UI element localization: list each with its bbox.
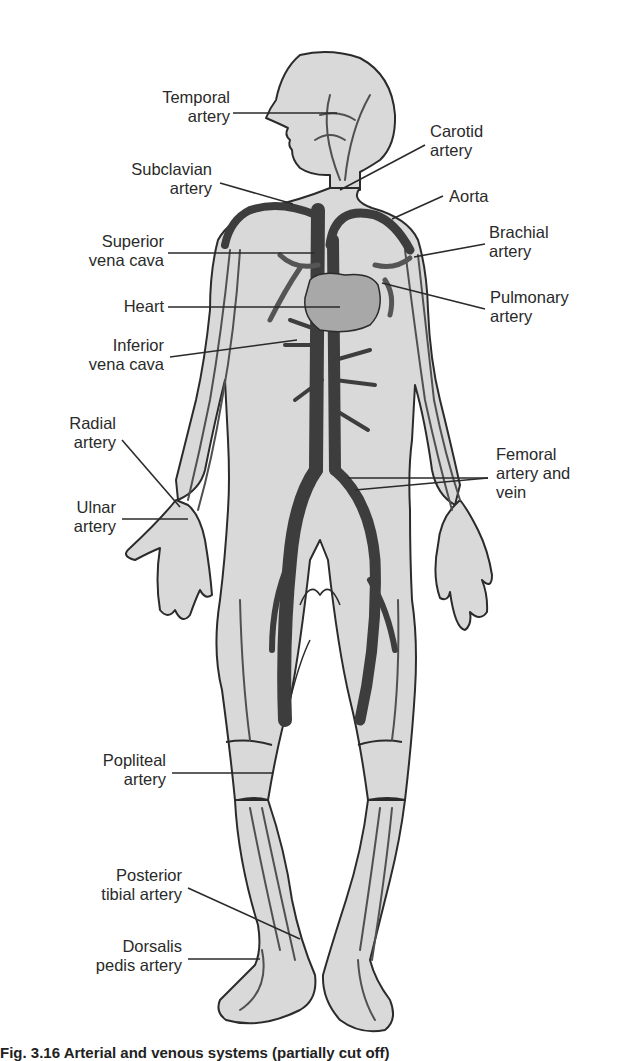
label-text: artery xyxy=(40,433,116,452)
label-popliteal-artery: Popliteal artery xyxy=(80,751,166,789)
label-text: artery xyxy=(80,770,166,789)
label-dorsalis-pedis-artery: Dorsalis pedis artery xyxy=(70,937,182,975)
left-hand xyxy=(126,500,212,619)
label-text: artery xyxy=(489,242,549,261)
label-text: artery xyxy=(100,179,212,198)
label-text: Ulnar xyxy=(40,498,116,517)
label-radial-artery: Radial artery xyxy=(40,414,116,452)
label-text: Femoral xyxy=(496,445,570,464)
label-text: Subclavian xyxy=(100,160,212,179)
label-carotid-artery: Carotid artery xyxy=(430,122,483,160)
label-text: Aorta xyxy=(449,187,488,206)
label-text: vena cava xyxy=(70,355,164,374)
label-femoral-artery-and-vein: Femoral artery and vein xyxy=(496,445,570,502)
label-text: Superior xyxy=(70,232,164,251)
label-text: Dorsalis xyxy=(70,937,182,956)
label-text: Popliteal xyxy=(80,751,166,770)
figure-caption: Fig. 3.16 Arterial and venous systems (p… xyxy=(0,1044,390,1061)
label-ulnar-artery: Ulnar artery xyxy=(40,498,116,536)
head-outline xyxy=(266,52,395,190)
label-text: Heart xyxy=(70,297,164,316)
label-text: Posterior xyxy=(70,866,182,885)
right-hand xyxy=(435,500,492,630)
label-subclavian-artery: Subclavian artery xyxy=(100,160,212,198)
label-temporal-artery: Temporal artery xyxy=(140,88,230,126)
label-inferior-vena-cava: Inferior vena cava xyxy=(70,336,164,374)
label-aorta: Aorta xyxy=(449,187,488,206)
label-text: Temporal xyxy=(140,88,230,107)
label-text: artery and xyxy=(496,464,570,483)
label-text: Carotid xyxy=(430,122,483,141)
label-text: artery xyxy=(40,517,116,536)
label-text: Brachial xyxy=(489,223,549,242)
label-brachial-artery: Brachial artery xyxy=(489,223,549,261)
label-posterior-tibial-artery: Posterior tibial artery xyxy=(70,866,182,904)
label-text: artery xyxy=(430,141,483,160)
label-text: vena cava xyxy=(70,251,164,270)
label-text: pedis artery xyxy=(70,956,182,975)
label-text: Inferior xyxy=(70,336,164,355)
label-text: tibial artery xyxy=(70,885,182,904)
label-text: vein xyxy=(496,483,570,502)
label-text: artery xyxy=(140,107,230,126)
label-text: artery xyxy=(490,307,569,326)
label-text: Pulmonary xyxy=(490,288,569,307)
heart-shape xyxy=(305,273,380,331)
label-text: Radial xyxy=(40,414,116,433)
vena-cava xyxy=(316,210,318,470)
label-pulmonary-artery: Pulmonary artery xyxy=(490,288,569,326)
label-superior-vena-cava: Superior vena cava xyxy=(70,232,164,270)
label-heart: Heart xyxy=(70,297,164,316)
